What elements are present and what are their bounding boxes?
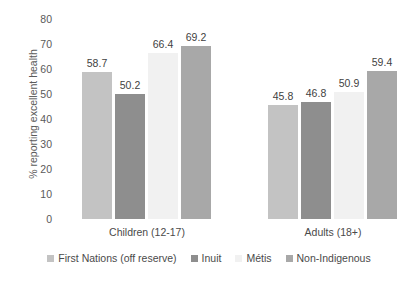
legend-label: Non-Indigenous bbox=[297, 252, 371, 264]
category-label-children: Children (12-17) bbox=[82, 226, 212, 238]
bar-slot-adults-3: 59.4 bbox=[367, 19, 397, 219]
bar-adults-inuit[interactable] bbox=[301, 102, 331, 219]
legend-item-first-nations-off-reserve[interactable]: First Nations (off reserve) bbox=[47, 252, 176, 264]
legend-item-inuit[interactable]: Inuit bbox=[191, 252, 222, 264]
bar-slot-children-2: 66.4 bbox=[148, 19, 178, 219]
bar-chart: % reporting excellent health 80706050403… bbox=[0, 0, 418, 283]
legend-item-non-indigenous[interactable]: Non-Indigenous bbox=[286, 252, 371, 264]
bar-slot-adults-2: 50.9 bbox=[334, 19, 364, 219]
y-axis-tick-60: 60 bbox=[26, 64, 52, 74]
legend-swatch-icon bbox=[235, 255, 242, 262]
legend-swatch-icon bbox=[47, 255, 54, 262]
legend-item-m-tis[interactable]: Métis bbox=[235, 252, 271, 264]
y-axis-tick-0: 0 bbox=[26, 214, 52, 224]
legend-label: First Nations (off reserve) bbox=[58, 252, 176, 264]
legend-swatch-icon bbox=[286, 255, 293, 262]
bar-children-m-tis[interactable] bbox=[148, 53, 178, 219]
y-axis-tick-70: 70 bbox=[26, 39, 52, 49]
bar-slot-adults-0: 45.8 bbox=[268, 19, 298, 219]
y-axis-tick-50: 50 bbox=[26, 89, 52, 99]
y-axis-tick-30: 30 bbox=[26, 139, 52, 149]
bar-value-label: 50.2 bbox=[106, 80, 154, 91]
bar-adults-m-tis[interactable] bbox=[334, 92, 364, 219]
bar-value-label: 50.9 bbox=[325, 78, 373, 89]
y-axis-tick-40: 40 bbox=[26, 114, 52, 124]
bar-slot-children-3: 69.2 bbox=[181, 19, 211, 219]
legend-label: Métis bbox=[246, 252, 271, 264]
bar-slot-children-0: 58.7 bbox=[82, 19, 112, 219]
bar-children-inuit[interactable] bbox=[115, 94, 145, 220]
chart-legend: First Nations (off reserve)InuitMétisNon… bbox=[0, 252, 418, 264]
bar-value-label: 59.4 bbox=[358, 57, 406, 68]
category-label-adults: Adults (18+) bbox=[268, 226, 398, 238]
bar-adults-non-indigenous[interactable] bbox=[367, 71, 397, 220]
y-axis-tick-20: 20 bbox=[26, 164, 52, 174]
bar-group-adults: 45.846.850.959.4 bbox=[268, 19, 398, 219]
x-axis-category-labels: Children (12-17) Adults (18+) bbox=[58, 226, 410, 242]
y-axis-tick-10: 10 bbox=[26, 189, 52, 199]
plot-area: 58.750.266.469.2 45.846.850.959.4 bbox=[58, 19, 410, 219]
bar-value-label: 58.7 bbox=[73, 58, 121, 69]
bar-group-children: 58.750.266.469.2 bbox=[82, 19, 212, 219]
bar-adults-first-nations-off-reserve[interactable] bbox=[268, 105, 298, 220]
y-axis-tick-labels: 80706050403020100 bbox=[26, 14, 52, 226]
bar-value-label: 46.8 bbox=[292, 88, 340, 99]
legend-swatch-icon bbox=[191, 255, 198, 262]
bar-children-first-nations-off-reserve[interactable] bbox=[82, 72, 112, 219]
legend-label: Inuit bbox=[202, 252, 222, 264]
y-axis-tick-80: 80 bbox=[26, 14, 52, 24]
bar-children-non-indigenous[interactable] bbox=[181, 46, 211, 219]
bar-value-label: 69.2 bbox=[172, 32, 220, 43]
bar-slot-adults-1: 46.8 bbox=[301, 19, 331, 219]
